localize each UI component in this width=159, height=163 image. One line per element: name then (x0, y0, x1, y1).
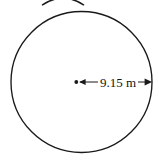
dimension-arrow-right (145, 78, 153, 85)
figure-container: 9.15 m (0, 0, 159, 163)
partial-arc-top (43, 0, 84, 5)
radius-dimension-label: 9.15 m (100, 75, 136, 90)
circle-center-dot (74, 80, 78, 84)
circle-radius-figure: 9.15 m (0, 0, 159, 163)
dimension-arrow-left (79, 79, 85, 85)
